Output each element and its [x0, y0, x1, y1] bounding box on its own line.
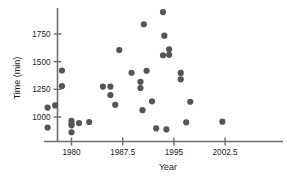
data-point: [160, 9, 166, 15]
data-point: [68, 129, 74, 135]
data-point: [128, 70, 134, 76]
data-point: [107, 83, 113, 89]
scatter-chart: 1000125015001750 19801987.519952002.5 Ye…: [0, 0, 287, 176]
data-point: [166, 46, 172, 52]
data-point: [52, 102, 58, 108]
data-point: [143, 68, 149, 74]
x-axis-tick-label: 1987.5: [110, 148, 135, 157]
data-point: [107, 92, 113, 98]
data-point: [141, 21, 147, 27]
y-axis-tick-label: 1750: [32, 30, 51, 39]
data-point: [178, 76, 184, 82]
y-axis-tick-label: 1000: [32, 113, 51, 122]
y-axis-title: Time (min): [12, 57, 22, 100]
data-points-group: [45, 9, 226, 135]
x-axis-tick-label: 1980: [62, 148, 81, 157]
data-point: [219, 119, 225, 125]
data-point: [163, 126, 169, 132]
data-point: [59, 67, 65, 73]
data-point: [86, 119, 92, 125]
data-point: [68, 122, 74, 128]
data-point: [100, 83, 106, 89]
data-point: [178, 70, 184, 76]
data-point: [149, 98, 155, 104]
data-point: [116, 47, 122, 53]
data-point: [183, 119, 189, 125]
data-point: [76, 120, 82, 126]
y-axis-tick-label: 1250: [32, 85, 51, 94]
chart-canvas: 1000125015001750 19801987.519952002.5 Ye…: [0, 0, 287, 176]
data-point: [112, 102, 118, 108]
x-axis-tick-group: 19801987.519952002.5: [62, 138, 238, 157]
data-point: [45, 124, 51, 130]
data-point: [187, 99, 193, 105]
x-axis-tick-label: 2002.5: [213, 148, 238, 157]
data-point: [59, 83, 65, 89]
data-point: [137, 79, 143, 85]
data-point: [160, 52, 166, 58]
data-point: [139, 107, 145, 113]
data-point: [166, 52, 172, 58]
y-axis-tick-label: 1500: [32, 58, 51, 67]
x-axis-tick-label: 1995: [165, 148, 184, 157]
data-point: [45, 104, 51, 110]
data-point: [153, 125, 159, 131]
data-point: [161, 33, 167, 39]
data-point: [137, 85, 143, 91]
x-axis-title: Year: [159, 162, 177, 172]
